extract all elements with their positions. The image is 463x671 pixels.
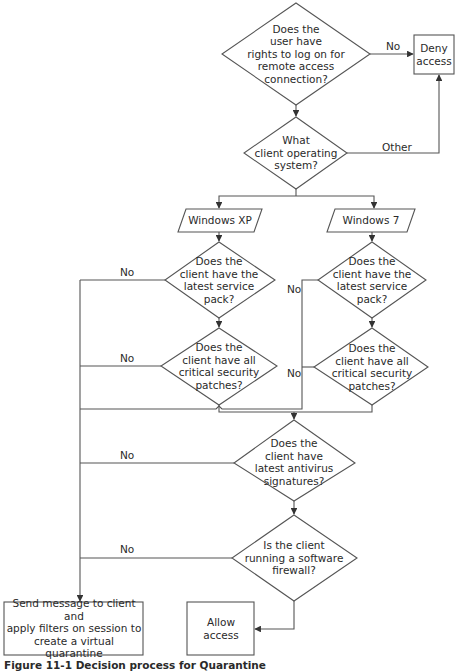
label-xp-sp-no: No <box>120 266 134 278</box>
deny-access-text: Deny access <box>414 35 454 74</box>
label-antivirus-no: No <box>120 449 134 461</box>
edge-os-7 <box>296 196 374 208</box>
decision-os-text: What client operating system? <box>250 133 342 173</box>
w7-decision-sp-text: Does the client have the latest service … <box>327 254 417 306</box>
edge-os-xp <box>219 196 296 208</box>
label-w7-patches-no: No <box>287 367 301 379</box>
decision-firewall-text: Is the client running a software firewal… <box>236 538 352 578</box>
windows-7-label: Windows 7 <box>330 209 412 232</box>
label-xp-patches-no: No <box>120 352 134 364</box>
edge-firewall-yes <box>255 601 294 629</box>
label-w7-sp-no: No <box>287 283 301 295</box>
w7-decision-patches-text: Does the client have all critical securi… <box>325 341 419 393</box>
decision-rights-text: Does the user have rights to log on for … <box>236 22 356 86</box>
windows-xp-label: Windows XP <box>180 209 260 232</box>
figure-caption: Figure 11-1 Decision process for Quarant… <box>4 659 266 671</box>
xp-decision-patches-text: Does the client have all critical securi… <box>172 340 266 392</box>
quarantine-text: Send message to client and apply filters… <box>4 602 144 655</box>
label-firewall-no: No <box>120 543 134 555</box>
label-rights-no: No <box>386 40 400 52</box>
xp-decision-sp-text: Does the client have the latest service … <box>174 254 264 306</box>
label-os-other: Other <box>382 141 412 153</box>
allow-access-text: Allow access <box>187 602 255 655</box>
decision-antivirus-text: Does the client have latest antivirus si… <box>244 436 344 488</box>
